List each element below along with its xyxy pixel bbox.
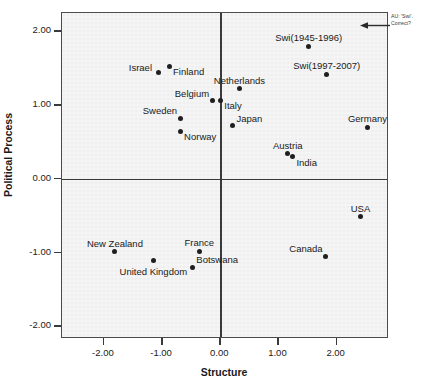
data-point-label: United Kingdom <box>120 267 188 277</box>
y-axis-tick <box>54 104 61 106</box>
data-point <box>237 86 242 91</box>
y-axis-tick <box>54 252 61 254</box>
plot-area: IsraelFinlandNetherlandsBelgiumItalySwed… <box>61 12 388 338</box>
data-point-label: Austria <box>273 141 303 151</box>
y-axis-tick-label: 2.00 <box>33 26 52 36</box>
data-point <box>358 214 363 219</box>
data-point-label: Swi(1945-1996) <box>275 33 342 43</box>
x-axis-tick <box>219 338 221 345</box>
data-point <box>197 249 202 254</box>
data-point-label: Sweden <box>143 106 177 116</box>
y-axis-tick <box>54 178 61 180</box>
x-axis-tick-label: 0.00 <box>210 348 229 358</box>
editorial-query-annotation: AU: 'Swi'. Correct? <box>391 13 427 27</box>
data-point <box>178 116 183 121</box>
x-axis-tick-label: 2.00 <box>326 348 345 358</box>
data-point-label: Finland <box>173 67 204 77</box>
x-axis-tick-label: -1.00 <box>150 348 172 358</box>
data-point-label: Botswana <box>196 255 238 265</box>
y-axis-tick-label: -2.00 <box>29 321 51 331</box>
data-point-label: Norway <box>184 132 216 142</box>
data-point-label: Germany <box>348 114 387 124</box>
y-axis-tick-label: 0.00 <box>33 173 52 183</box>
data-point <box>324 72 329 77</box>
reference-line-x-zero <box>220 13 222 337</box>
data-point-label: New Zealand <box>87 239 143 249</box>
data-point-label: Swi(1997-2007) <box>293 61 360 71</box>
data-point <box>190 265 195 270</box>
data-point <box>306 44 311 49</box>
data-point <box>178 129 183 134</box>
data-point-label: USA <box>351 204 371 214</box>
x-axis-tick <box>161 338 163 345</box>
data-point-label: Canada <box>289 244 322 254</box>
x-axis-tick <box>336 338 338 345</box>
data-point <box>290 154 295 159</box>
data-point <box>151 258 156 263</box>
data-point-label: India <box>296 158 317 168</box>
annotation-arrow-icon <box>360 21 391 30</box>
data-point <box>156 70 161 75</box>
data-point <box>112 249 117 254</box>
x-axis-title: Structure <box>201 366 248 378</box>
data-point-label: Belgium <box>175 89 209 99</box>
data-point <box>365 125 370 130</box>
reference-line-y-zero <box>62 179 387 181</box>
y-axis-tick-label: 1.00 <box>33 99 52 109</box>
y-axis-title: Political Process <box>2 113 14 197</box>
x-axis-tick <box>103 338 105 345</box>
data-point-label: Israel <box>129 63 152 73</box>
data-point <box>230 123 235 128</box>
data-point-label: Japan <box>236 114 262 124</box>
x-axis-tick-label: -2.00 <box>92 348 114 358</box>
y-axis-tick <box>54 325 61 327</box>
x-axis-tick <box>277 338 279 345</box>
data-point-label: Italy <box>224 101 241 111</box>
data-point <box>167 64 172 69</box>
annotation-line-1: AU: 'Swi'. <box>391 13 427 20</box>
data-point <box>218 98 223 103</box>
data-point-label: Netherlands <box>214 76 265 86</box>
x-axis-tick-label: 1.00 <box>268 348 287 358</box>
data-point <box>323 254 328 259</box>
data-point-label: France <box>185 238 215 248</box>
scatter-plot-figure: IsraelFinlandNetherlandsBelgiumItalySwed… <box>0 0 427 392</box>
annotation-line-2: Correct? <box>391 20 427 27</box>
y-axis-tick <box>54 30 61 32</box>
data-point <box>210 98 215 103</box>
y-axis-tick-label: -1.00 <box>29 247 51 257</box>
